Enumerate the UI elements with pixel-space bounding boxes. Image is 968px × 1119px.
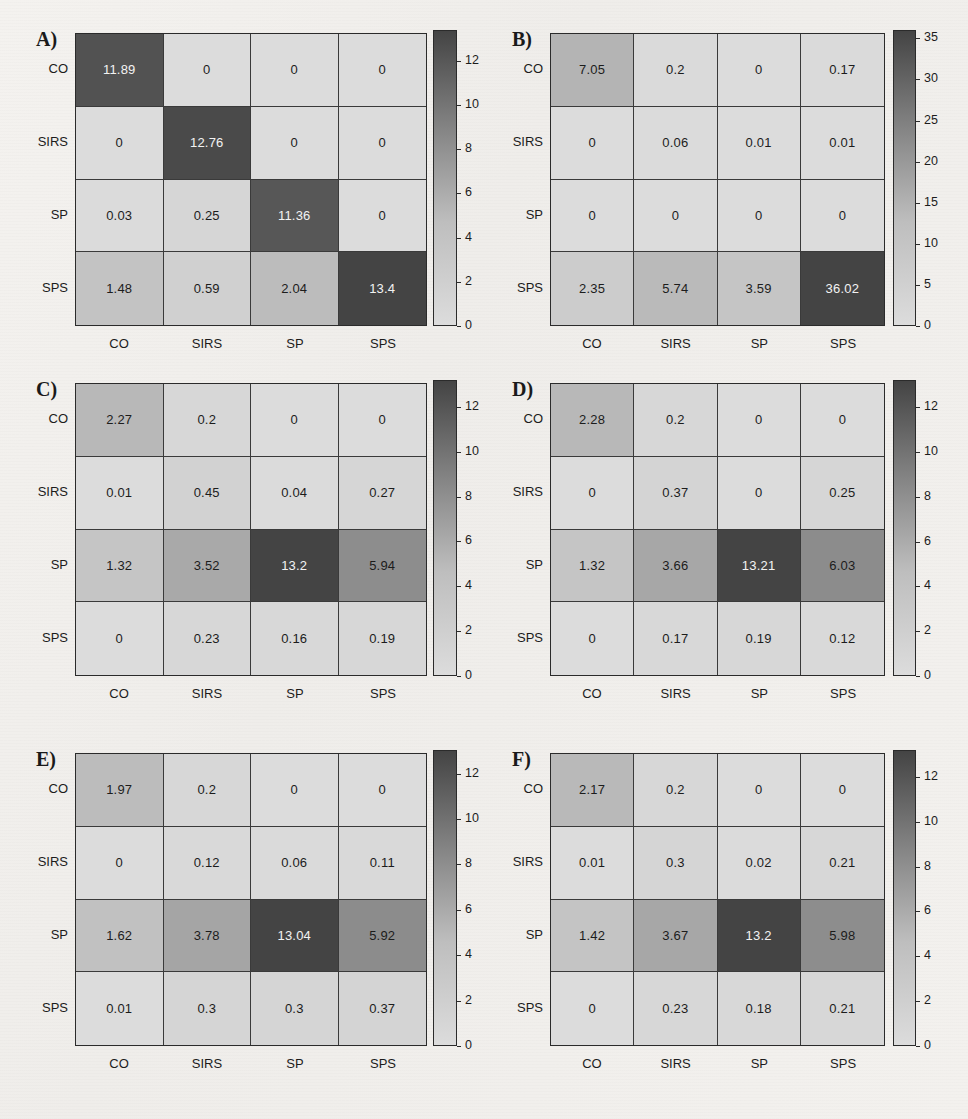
- heatmap-cell-value: 0: [588, 485, 595, 500]
- colorbar-tick-mark: [457, 631, 461, 632]
- colorbar-tick-mark: [916, 867, 920, 868]
- heatmap-cell-value: 7.05: [579, 62, 605, 77]
- heatmap-cell: 0.21: [801, 972, 884, 1045]
- colorbar-tick-label: 30: [924, 71, 938, 85]
- colorbar-tick-label: 2: [465, 993, 472, 1007]
- x-axis-tick-label: CO: [75, 336, 163, 351]
- heatmap-cell-value: 0: [291, 782, 298, 797]
- heatmap-cell: 2.35: [551, 252, 634, 325]
- colorbar-tick-mark: [916, 244, 920, 245]
- heatmap-cell-value: 0.01: [106, 485, 132, 500]
- heatmap-cell: 0.12: [801, 602, 884, 675]
- x-axis-tick-label: CO: [75, 1056, 163, 1071]
- heatmap-cell: 0.23: [164, 602, 252, 675]
- heatmap-cell-value: 2.04: [281, 281, 307, 296]
- colorbar: [433, 30, 457, 326]
- x-axis-tick-label: SP: [718, 336, 802, 351]
- heatmap-cell: 0: [551, 107, 634, 180]
- heatmap-cell: 0: [76, 107, 164, 180]
- y-axis-tick-label: SP: [13, 557, 68, 572]
- heatmap-cell: 0.19: [718, 602, 801, 675]
- heatmap-cell-value: 5.92: [369, 928, 395, 943]
- colorbar-tick-mark: [457, 819, 461, 820]
- x-axis-tick-label: CO: [550, 1056, 634, 1071]
- colorbar-tick-mark: [916, 79, 920, 80]
- colorbar-tick-mark: [457, 61, 461, 62]
- colorbar: [433, 380, 457, 676]
- x-axis-tick-label: SP: [251, 1056, 339, 1071]
- heatmap-cell-value: 13.4: [369, 281, 395, 296]
- heatmap-cell-value: 0: [116, 855, 123, 870]
- heatmap-cell: 2.04: [251, 252, 339, 325]
- heatmap-cell: 13.2: [718, 900, 801, 973]
- heatmap-cell: 0: [801, 754, 884, 827]
- heatmap-cell-value: 0: [672, 208, 679, 223]
- x-axis-tick-label: CO: [75, 686, 163, 701]
- heatmap-cell-value: 0: [588, 631, 595, 646]
- colorbar-tick-label: 8: [465, 856, 472, 870]
- heatmap-cell: 0.02: [718, 827, 801, 900]
- heatmap-cell-value: 0: [116, 135, 123, 150]
- heatmap-cell: 3.66: [634, 530, 717, 603]
- heatmap-cell-value: 2.27: [106, 412, 132, 427]
- heatmap-cell-value: 1.48: [106, 281, 132, 296]
- x-axis-tick-label: SPS: [339, 1056, 427, 1071]
- colorbar-tick-label: 10: [924, 444, 938, 458]
- heatmap-cell: 13.21: [718, 530, 801, 603]
- heatmap-cell: 0: [551, 972, 634, 1045]
- heatmap-cell-value: 11.36: [278, 208, 311, 223]
- panel-letter: D): [512, 378, 533, 401]
- heatmap-cell: 0.19: [339, 602, 427, 675]
- panel-letter: F): [512, 748, 531, 771]
- heatmap-cell: 0.2: [634, 754, 717, 827]
- heatmap-cell: 0: [801, 180, 884, 253]
- colorbar-tick-label: 6: [924, 903, 931, 917]
- colorbar-tick-mark: [916, 676, 920, 677]
- heatmap-cell-value: 0.21: [829, 855, 855, 870]
- x-axis-tick-label: SP: [718, 686, 802, 701]
- heatmap-cell-value: 0: [291, 135, 298, 150]
- heatmap-cell: 6.03: [801, 530, 884, 603]
- heatmap-cell-value: 1.62: [106, 928, 132, 943]
- heatmap-cell-value: 0: [379, 208, 386, 223]
- heatmap-cell-value: 0.12: [829, 631, 855, 646]
- colorbar-tick-label: 2: [924, 623, 931, 637]
- colorbar-tick-label: 2: [465, 623, 472, 637]
- colorbar-tick-label: 0: [924, 1038, 931, 1052]
- heatmap-cell-value: 0.59: [194, 281, 220, 296]
- y-axis-tick-label: SIRS: [13, 854, 68, 869]
- heatmap-cell-value: 0.2: [666, 62, 685, 77]
- heatmap-cell-value: 0.27: [369, 485, 395, 500]
- x-axis-tick-label: SIRS: [634, 686, 718, 701]
- heatmap-cell-value: 0.18: [746, 1001, 772, 1016]
- colorbar-tick-label: 0: [465, 668, 472, 682]
- x-axis-tick-label: SIRS: [634, 336, 718, 351]
- heatmap-cell: 0.59: [164, 252, 252, 325]
- colorbar: [433, 750, 457, 1046]
- heatmap-cell-value: 0: [839, 782, 846, 797]
- heatmap-cell: 0.03: [76, 180, 164, 253]
- heatmap-cell: 0.37: [634, 457, 717, 530]
- heatmap-cell: 0: [164, 34, 252, 107]
- colorbar-tick-label: 12: [465, 53, 479, 67]
- heatmap-cell: 0.11: [339, 827, 427, 900]
- heatmap-cell-value: 0.3: [666, 855, 685, 870]
- heatmap-cell-value: 13.2: [281, 558, 307, 573]
- heatmap-cell: 0.01: [76, 972, 164, 1045]
- colorbar-tick-mark: [457, 407, 461, 408]
- colorbar-tick-mark: [916, 203, 920, 204]
- heatmap-cell: 0: [251, 754, 339, 827]
- heatmap-cell-value: 3.52: [194, 558, 220, 573]
- x-axis-tick-label: SIRS: [163, 1056, 251, 1071]
- heatmap-cell-value: 0.2: [666, 412, 685, 427]
- heatmap-cell: 0: [339, 107, 427, 180]
- y-axis-tick-label: CO: [13, 61, 68, 76]
- heatmap-cell-value: 0.37: [662, 485, 688, 500]
- heatmap-cell-value: 0: [755, 485, 762, 500]
- y-axis-tick-label: SIRS: [488, 134, 543, 149]
- colorbar: [893, 30, 916, 326]
- heatmap-cell: 1.62: [76, 900, 164, 973]
- heatmap-cell: 0.25: [164, 180, 252, 253]
- heatmap-cell-value: 0.25: [829, 485, 855, 500]
- colorbar-tick-mark: [916, 1046, 920, 1047]
